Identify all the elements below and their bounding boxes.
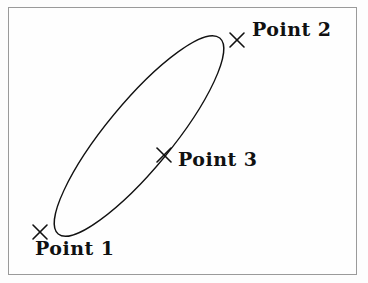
marker-point-3 bbox=[157, 148, 171, 162]
figure-root: Point 1 Point 2 Point 3 bbox=[0, 0, 368, 283]
ellipse-shape bbox=[33, 17, 245, 255]
label-point-3: Point 3 bbox=[178, 150, 258, 169]
label-point-2: Point 2 bbox=[252, 20, 332, 39]
label-point-1: Point 1 bbox=[35, 239, 115, 258]
marker-point-2 bbox=[230, 33, 244, 47]
